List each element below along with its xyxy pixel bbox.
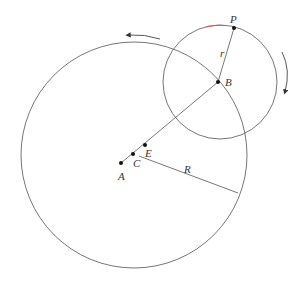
highlight-arc — [206, 25, 226, 27]
point-B — [216, 80, 220, 84]
arrow-clockwise-icon — [282, 52, 287, 92]
label-A: A — [118, 171, 125, 182]
label-R: R — [184, 164, 191, 175]
point-A — [119, 161, 123, 165]
label-B: B — [225, 77, 232, 88]
label-E: E — [145, 148, 152, 159]
line-A-to-B — [121, 82, 218, 163]
label-C: C — [133, 158, 140, 169]
diagram-canvas — [0, 0, 301, 282]
point-C — [131, 152, 135, 156]
label-r: r — [220, 48, 224, 59]
point-P — [232, 26, 236, 30]
arrow-counterclockwise-icon — [128, 35, 160, 39]
label-P: P — [230, 14, 237, 25]
epicycle-diagram: P r B E C A R — [0, 0, 301, 282]
